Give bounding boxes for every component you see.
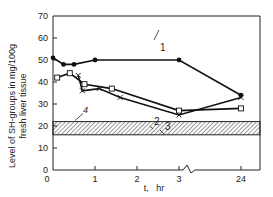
series-3-label: 3 xyxy=(165,121,171,132)
band-4-label: 4 xyxy=(83,105,88,115)
series-2-point xyxy=(67,71,72,76)
series-1-point xyxy=(72,62,77,67)
series-1-label: 1 xyxy=(160,42,166,53)
band-4-leader xyxy=(75,114,83,121)
chart: 4 010203040506070012324 123 Level of SH-… xyxy=(0,0,273,197)
y-tick-label: 20 xyxy=(38,121,48,131)
series-2-point xyxy=(82,82,87,87)
series-2-point xyxy=(109,86,114,91)
y-tick-label: 30 xyxy=(38,99,48,109)
y-axis-label-line2: fresh liver tissue xyxy=(18,73,28,138)
y-axis-label-line1: Level of SH-groups in mg/100g xyxy=(7,44,17,168)
series-2-label: 2 xyxy=(154,116,160,127)
x-axis-label: t, hr xyxy=(144,183,165,193)
x-tick-label: 2 xyxy=(134,174,139,184)
x-tick-label: 24 xyxy=(236,174,246,184)
series-1-point xyxy=(93,58,98,63)
x-axis-with-break xyxy=(53,165,260,173)
x-tick-label: 1 xyxy=(92,174,97,184)
x-tick-label: 0 xyxy=(44,174,49,184)
y-tick-label: 60 xyxy=(38,33,48,43)
series-1-point xyxy=(61,62,66,67)
x-tick-label: 3 xyxy=(176,174,181,184)
series-2-point xyxy=(55,75,60,80)
y-tick-label: 70 xyxy=(38,11,48,21)
series-2-point xyxy=(177,108,182,113)
y-tick-label: 10 xyxy=(38,143,48,153)
y-tick-label: 50 xyxy=(38,55,48,65)
series-2-point xyxy=(239,106,244,111)
series-1-point xyxy=(51,55,56,60)
y-tick-label: 40 xyxy=(38,77,48,87)
series-1-point xyxy=(177,58,182,63)
series-1-leader xyxy=(154,30,159,40)
